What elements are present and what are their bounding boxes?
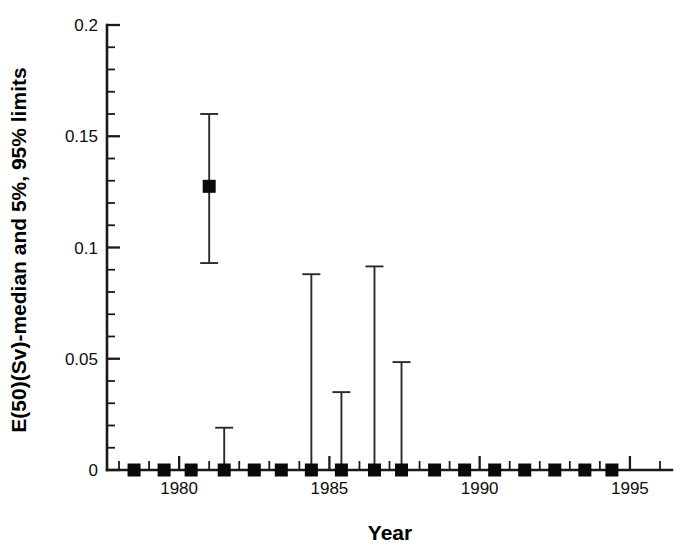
x-tick-label: 1980 [160, 479, 198, 498]
y-tick-label: 0.05 [65, 350, 98, 369]
data-point-marker [305, 464, 318, 477]
x-tick-label: 1995 [611, 479, 649, 498]
data-point-marker [518, 464, 531, 477]
data-point-marker [548, 464, 561, 477]
data-point-marker [578, 464, 591, 477]
data-point-marker [185, 464, 198, 477]
data-point-marker [605, 464, 618, 477]
y-axis-title: E(50)(Sv)-median and 5%, 95% limits [7, 67, 30, 432]
data-point-marker [335, 464, 348, 477]
data-point-marker [275, 464, 288, 477]
y-tick-label: 0 [89, 461, 98, 480]
data-point-marker [128, 464, 141, 477]
data-point-marker [368, 464, 381, 477]
data-point-marker [488, 464, 501, 477]
data-point-marker [158, 464, 171, 477]
data-point-marker [203, 180, 216, 193]
data-point-marker [428, 464, 441, 477]
x-tick-label: 1985 [310, 479, 348, 498]
data-point-marker [395, 464, 408, 477]
y-tick-label: 0.2 [74, 16, 98, 35]
data-point-marker [248, 464, 261, 477]
x-axis-title: Year [368, 521, 412, 544]
y-tick-label: 0.15 [65, 127, 98, 146]
data-point-marker [458, 464, 471, 477]
error-bar-chart: 00.050.10.150.2 1980198519901995 E(50)(S… [0, 0, 683, 555]
data-point-marker [218, 464, 231, 477]
y-tick-label: 0.1 [74, 239, 98, 258]
x-tick-label: 1990 [461, 479, 499, 498]
chart-figure: 00.050.10.150.2 1980198519901995 E(50)(S… [0, 0, 683, 555]
